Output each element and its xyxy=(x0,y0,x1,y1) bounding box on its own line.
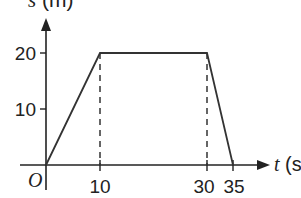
x-axis-label-unit: (s xyxy=(280,153,301,175)
x-tick-label-35: 35 xyxy=(223,176,244,197)
y-axis-label-unit: (m) xyxy=(36,0,73,11)
y-axis-label: s (m) xyxy=(28,0,74,12)
x-tick-label-10: 10 xyxy=(89,176,110,197)
y-tick-label-10: 10 xyxy=(15,99,36,120)
displacement-time-graph: 20 10 10 30 35 O s (m) t (s xyxy=(0,0,301,198)
x-axis-label: t (s xyxy=(274,153,301,175)
y-axis-arrow-icon xyxy=(41,18,51,31)
y-tick-label-20: 20 xyxy=(15,43,36,64)
y-axis-label-var: s xyxy=(28,0,36,12)
origin-label: O xyxy=(28,169,42,191)
data-line xyxy=(46,53,233,165)
x-tick-label-30: 30 xyxy=(193,176,214,197)
x-axis-arrow-icon xyxy=(257,160,270,170)
